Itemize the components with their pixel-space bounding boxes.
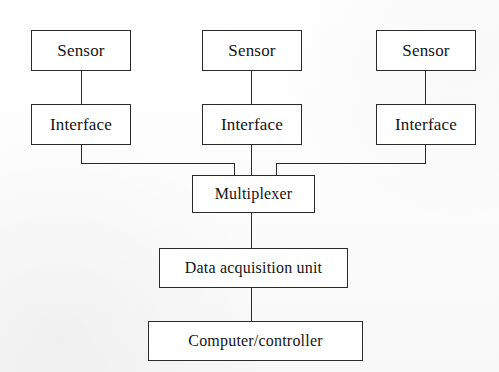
node-data-acquisition-unit-label: Data acquisition unit bbox=[185, 260, 323, 276]
edge-interface3-to-mux-drop bbox=[425, 145, 426, 164]
node-sensor-3: Sensor bbox=[376, 30, 476, 71]
node-interface-1-label: Interface bbox=[50, 116, 112, 133]
edge-interface2-to-mux bbox=[251, 145, 252, 176]
node-sensor-1: Sensor bbox=[31, 30, 131, 71]
node-sensor-2: Sensor bbox=[202, 30, 302, 71]
node-multiplexer-label: Multiplexer bbox=[215, 186, 293, 202]
edge-interface1-to-mux-drop bbox=[81, 145, 82, 164]
node-sensor-1-label: Sensor bbox=[57, 42, 104, 59]
edge-sensor1-to-interface1 bbox=[81, 71, 82, 105]
edge-interface1-to-mux-run bbox=[81, 163, 235, 164]
edge-mux-to-daq bbox=[251, 213, 252, 249]
node-interface-3-label: Interface bbox=[395, 116, 457, 133]
node-sensor-3-label: Sensor bbox=[402, 42, 449, 59]
edge-sensor3-to-interface3 bbox=[425, 71, 426, 105]
node-computer-controller-label: Computer/controller bbox=[188, 333, 322, 349]
node-interface-2-label: Interface bbox=[221, 116, 283, 133]
edge-interface3-to-mux-run bbox=[276, 163, 426, 164]
node-interface-2: Interface bbox=[202, 104, 302, 145]
node-interface-1: Interface bbox=[31, 104, 131, 145]
node-data-acquisition-unit: Data acquisition unit bbox=[159, 248, 348, 288]
node-computer-controller: Computer/controller bbox=[148, 321, 363, 361]
node-multiplexer: Multiplexer bbox=[192, 175, 315, 213]
block-diagram: Sensor Sensor Sensor Interface Interface… bbox=[0, 0, 499, 372]
node-sensor-2-label: Sensor bbox=[228, 42, 275, 59]
edge-daq-to-computer bbox=[251, 288, 252, 322]
node-interface-3: Interface bbox=[376, 104, 476, 145]
edge-sensor2-to-interface2 bbox=[251, 71, 252, 105]
